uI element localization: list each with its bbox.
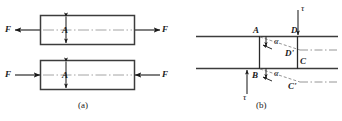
shear-angle-marker-upper-slant: [263, 45, 272, 49]
tension-area-label: A: [62, 26, 68, 35]
panel-a-caption: (a): [78, 101, 88, 110]
vertex-c-label: C: [300, 57, 306, 66]
vertex-c-prime-label: C': [288, 82, 297, 91]
figure-container: F F A F F A (a) A B C D C' D' τ τ α α (b…: [0, 0, 342, 121]
tension-right-force-label: F: [162, 25, 168, 34]
vertex-d-label: D: [291, 26, 298, 35]
vertex-d-prime-label: D': [285, 49, 294, 58]
shear-angle-bottom-label: α: [274, 69, 278, 78]
shear-stress-bottom-label: τ: [243, 93, 246, 102]
vertex-a-label: A: [253, 26, 259, 35]
figure-drawing: [0, 0, 342, 121]
vertex-b-label: B: [252, 71, 258, 80]
tension-left-force-label: F: [5, 25, 11, 34]
shear-angle-top-label: α: [274, 37, 278, 46]
compression-area-label: A: [62, 71, 68, 80]
compression-right-force-label: F: [162, 70, 168, 79]
compression-left-force-label: F: [5, 70, 11, 79]
shear-stress-top-label: τ: [301, 4, 304, 13]
shear-angle-marker-lower-slant: [263, 77, 272, 81]
panel-b-caption: (b): [256, 101, 267, 110]
